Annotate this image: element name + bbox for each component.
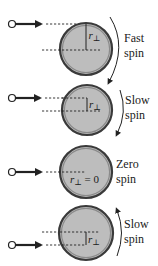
ball-icon xyxy=(9,95,16,102)
incoming-ball xyxy=(9,169,42,176)
incoming-ball xyxy=(9,95,41,102)
spin-label-line1: Slow xyxy=(124,217,149,231)
incoming-ball xyxy=(9,21,42,28)
spin-diagram: r⊥ Fast spin r⊥ Slow spin r⊥ = 0 Zero sp… xyxy=(0,0,158,266)
spin-arrow-clockwise-icon xyxy=(117,90,123,134)
panel-slow-spin-counterclockwise: r⊥ Slow spin xyxy=(9,206,150,260)
panel-zero-spin: r⊥ = 0 Zero spin xyxy=(9,146,139,198)
spin-label-line2: spin xyxy=(125,108,145,122)
panel-fast-spin: r⊥ Fast spin xyxy=(9,17,145,82)
spin-label-line1: Fast xyxy=(124,31,145,45)
incoming-ball xyxy=(9,242,42,249)
ball-icon xyxy=(9,169,16,176)
spin-label-line2: spin xyxy=(124,46,144,60)
ball-icon xyxy=(9,21,16,28)
spin-label-line1: Slow xyxy=(125,93,150,107)
ball-icon xyxy=(9,242,16,249)
spin-label-line2: spin xyxy=(116,172,136,186)
spin-label-line2: spin xyxy=(124,232,144,246)
panel-slow-spin-clockwise: r⊥ Slow spin xyxy=(9,85,151,135)
spin-arrow-counterclockwise-icon xyxy=(117,210,122,256)
spin-label-line1: Zero xyxy=(116,157,139,171)
